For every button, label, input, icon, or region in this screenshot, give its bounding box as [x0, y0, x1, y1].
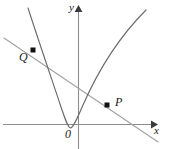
point-q-marker: [31, 48, 36, 53]
x-axis-label: x: [154, 125, 159, 136]
y-axis-arrowhead: [75, 5, 83, 12]
y-axis-label: y: [69, 2, 74, 13]
figure-canvas: [0, 0, 176, 149]
point-p-label: P: [115, 96, 122, 108]
geometry-figure: y x 0 Q P: [0, 0, 176, 149]
point-q-label: Q: [19, 51, 28, 63]
origin-label: 0: [65, 128, 71, 140]
point-p-marker: [105, 103, 110, 108]
parabola-curve: [28, 8, 146, 128]
